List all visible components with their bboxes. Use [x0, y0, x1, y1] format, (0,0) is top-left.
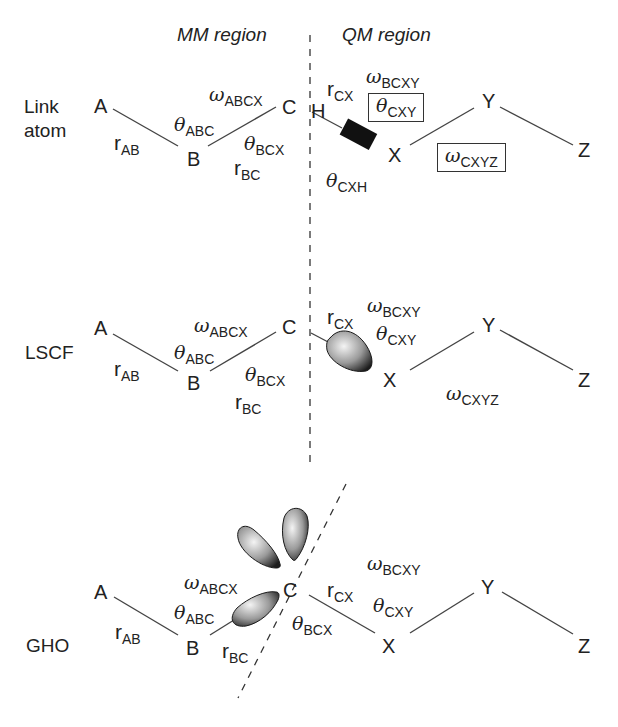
link-bond-block-icon [340, 119, 378, 150]
label-omega-cxyz-boxed: ωCXYZ [437, 143, 506, 172]
mm-region-label: MM region [177, 25, 267, 44]
atom-c: C [282, 317, 296, 337]
gho-orbital-lobe-upper-icon [282, 508, 308, 560]
atom-x: X [383, 370, 396, 390]
label-r-bc: rBC [222, 640, 248, 661]
label-theta-cxy: θCXY [376, 324, 416, 343]
label-theta-bcx: θBCX [244, 134, 284, 153]
label-omega-bcxy: ωBCXY [367, 554, 421, 573]
atom-y: Y [481, 577, 494, 597]
atom-a: A [94, 318, 107, 338]
atom-h-link: H [311, 101, 325, 121]
label-r-ab: rAB [114, 132, 140, 153]
atom-b: B [187, 373, 200, 393]
gho-hybrid-orbitals [232, 508, 308, 626]
atom-b: B [187, 149, 200, 169]
gho-orbital-lobe-lower-icon [232, 592, 279, 627]
label-omega-abcx: ωABCX [194, 316, 248, 335]
qm-region-label: QM region [342, 25, 431, 44]
panel-label-link-atom: Link atom [24, 95, 66, 143]
label-theta-abc: θABC [174, 603, 214, 622]
label-theta-cxy: θCXY [373, 596, 413, 615]
atom-c-boundary: C [283, 580, 297, 600]
label-omega-cxyz: ωCXYZ [446, 384, 499, 403]
atom-b: B [186, 638, 199, 658]
label-r-bc: rBC [235, 391, 261, 412]
atom-y: Y [482, 91, 495, 111]
label-r-cx: rCX [327, 579, 353, 600]
label-omega-abcx: ωABCX [184, 573, 238, 592]
atom-a: A [94, 96, 107, 116]
atom-y: Y [482, 315, 495, 335]
atom-x: X [382, 636, 395, 656]
lscf-orbital-lobe-icon [327, 331, 372, 372]
label-theta-cxy-boxed: θCXY [368, 93, 424, 122]
label-r-cx: rCX [327, 306, 353, 327]
label-theta-bcx: θBCX [292, 614, 332, 633]
label-theta-cxh: θCXH [326, 171, 367, 190]
atom-x: X [388, 145, 401, 165]
atom-c: C [282, 97, 296, 117]
label-theta-abc: θABC [174, 343, 214, 362]
label-omega-bcxy: ωBCXY [367, 296, 421, 315]
label-r-ab: rAB [115, 621, 141, 642]
atom-z: Z [578, 370, 590, 390]
label-r-ab: rAB [114, 358, 140, 379]
panel-label-lscf: LSCF [25, 341, 74, 365]
atom-a: A [94, 582, 107, 602]
label-theta-bcx: θBCX [245, 365, 285, 384]
panel-label-gho: GHO [26, 634, 69, 658]
gho-orbital-lobe-upper-left-icon [238, 526, 281, 568]
label-theta-abc: θABC [174, 115, 214, 134]
label-r-cx: rCX [327, 78, 353, 99]
atom-z: Z [578, 636, 590, 656]
label-omega-bcxy: ωBCXY [366, 67, 420, 86]
label-r-bc: rBC [234, 157, 260, 178]
atom-z: Z [578, 140, 590, 160]
label-omega-abcx: ωABCX [209, 85, 263, 104]
